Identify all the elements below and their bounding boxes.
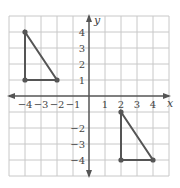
- x-tick-label: −1: [66, 99, 81, 110]
- y-tick-label: 3: [79, 43, 85, 54]
- vertex-point: [150, 157, 155, 162]
- x-tick-label: 4: [150, 99, 156, 110]
- x-tick-label: −3: [34, 99, 49, 110]
- y-axis-label: y: [93, 14, 101, 27]
- y-tick-label: −4: [70, 155, 85, 166]
- coordinate-plane: xy−4−3−2−112344321−2−3−4: [0, 0, 180, 188]
- x-tick-label: −4: [18, 99, 33, 110]
- y-tick-label: −3: [70, 139, 85, 150]
- vertex-point: [118, 157, 123, 162]
- x-axis-arrow-left-icon: [7, 93, 15, 99]
- y-tick-label: 4: [79, 27, 85, 38]
- x-axis-label: x: [167, 97, 174, 110]
- x-tick-label: 3: [134, 99, 140, 110]
- y-tick-label: 1: [79, 75, 85, 86]
- y-axis-arrow-up-icon: [86, 14, 92, 22]
- y-tick-label: 2: [79, 59, 85, 70]
- x-tick-label: 2: [118, 99, 124, 110]
- vertex-point: [54, 77, 59, 82]
- vertex-point: [118, 109, 123, 114]
- x-tick-label: 1: [102, 99, 108, 110]
- y-tick-label: −2: [70, 123, 85, 134]
- vertex-point: [22, 29, 27, 34]
- x-tick-label: −2: [50, 99, 65, 110]
- vertex-point: [22, 77, 27, 82]
- y-axis-arrow-down-icon: [86, 170, 92, 178]
